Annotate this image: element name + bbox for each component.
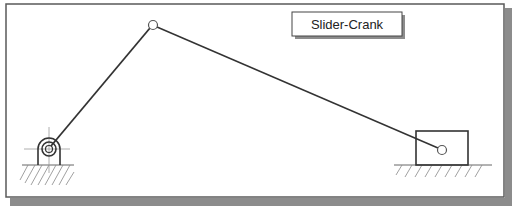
frame-shadow-right [505, 8, 512, 206]
title-label: Slider-Crank [292, 12, 405, 39]
title-text: Slider-Crank [311, 17, 384, 32]
slider-pin-joint-icon [438, 146, 447, 155]
crank-pin-joint-icon [149, 21, 158, 30]
slider-crank-diagram: Slider-Crank [0, 0, 512, 217]
frame-shadow-bottom [10, 198, 512, 206]
diagram-frame [6, 4, 504, 197]
